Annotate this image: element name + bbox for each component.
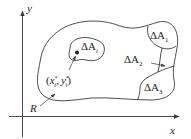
region-partition-diagram: y x ΔAi ΔA1 [0,0,191,139]
y-axis-label: y [26,2,32,14]
subregion-label-dA-2: ΔA2 [124,53,143,68]
sample-point-label: (x*i,y*i) [46,74,71,88]
dA-2-arrow [151,63,165,66]
region-r-label: R [29,102,37,114]
subregion-label-dA-i: ΔAi [81,40,98,55]
x-axis-label: x [169,124,175,136]
axes: y x [9,2,179,137]
sample-point-dot [75,51,79,55]
subregion-label-dA-1: ΔA1 [150,29,169,44]
subregion-label-dA-3: ΔA3 [144,81,163,96]
